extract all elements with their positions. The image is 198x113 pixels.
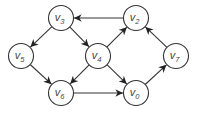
node-v0: v0 (124, 81, 149, 106)
edge-v4-to-v6-arrow (70, 65, 89, 84)
edge-v4-to-v2-arrow (107, 27, 127, 47)
edge-v4-to-v0-arrow (107, 65, 127, 84)
node-v2: v2 (124, 6, 149, 31)
edge-v3-to-v4-arrow (70, 27, 89, 47)
nodes-group: v0v2v3v4v5v6v7 (9, 6, 189, 106)
node-v7: v7 (164, 44, 189, 69)
node-v5: v5 (9, 44, 34, 69)
node-v6: v6 (49, 81, 74, 106)
node-subscript: 2 (134, 17, 140, 26)
edge-v5-to-v6-arrow (30, 64, 51, 84)
node-v3: v3 (49, 6, 74, 31)
node-v4: v4 (86, 44, 111, 69)
directed-graph: v0v2v3v4v5v6v7 (0, 0, 198, 113)
edge-v0-to-v7-arrow (145, 65, 166, 85)
node-subscript: 4 (97, 55, 101, 64)
edge-v7-to-v2-arrow (145, 27, 167, 47)
edge-v3-to-v5-arrow (30, 27, 52, 47)
